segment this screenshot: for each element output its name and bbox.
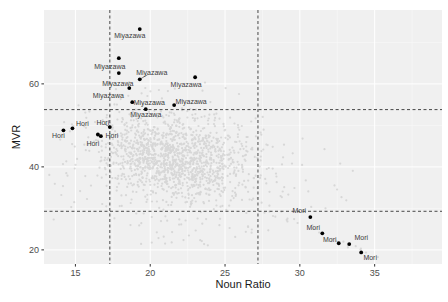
scatter-plot-figure: MiyazawaMiyazawaMiyazawaMiyazawaMiyazawa… <box>0 0 448 302</box>
x-tick-label: 25 <box>220 268 230 278</box>
data-point-label: Mori <box>354 234 368 241</box>
x-axis-title: Noun Ratio <box>44 278 442 290</box>
data-point-label: Hori <box>96 119 109 126</box>
data-point-label: Hori <box>76 120 89 127</box>
data-point-label: Mori <box>323 236 337 243</box>
y-tick-label: 60 <box>29 79 39 89</box>
data-point-label: Hori <box>52 132 65 139</box>
data-point <box>320 231 324 235</box>
data-point-label: Mori <box>363 254 377 261</box>
data-point-label: Mori <box>306 224 320 231</box>
data-point-label: Hori <box>86 140 99 147</box>
plot-panel <box>44 10 442 264</box>
data-point <box>308 215 312 219</box>
data-point <box>347 242 351 246</box>
x-tick-label: 20 <box>145 268 155 278</box>
y-axis: 204060 <box>29 79 44 255</box>
x-tick-label: 30 <box>295 268 305 278</box>
data-point <box>117 71 121 75</box>
data-point-label: Miyazawa <box>134 99 165 107</box>
x-tick-label: 15 <box>70 268 80 278</box>
data-point-label: Miyazawa <box>136 69 167 77</box>
data-point-label: Miyazawa <box>130 111 161 119</box>
data-point <box>71 126 75 130</box>
data-point-label: Miyazawa <box>176 98 207 106</box>
data-point-label: Miyazawa <box>94 63 125 71</box>
data-point-label: Miyazawa <box>114 32 145 40</box>
data-point <box>99 134 103 138</box>
y-tick-label: 40 <box>29 162 39 172</box>
data-point <box>127 86 131 90</box>
scatter-plot: MiyazawaMiyazawaMiyazawaMiyazawaMiyazawa… <box>0 0 448 302</box>
data-point-label: Hori <box>105 132 118 139</box>
x-tick-label: 35 <box>370 268 380 278</box>
y-tick-label: 20 <box>29 245 39 255</box>
data-point-label: Miyazawa <box>93 92 124 100</box>
data-point <box>337 241 341 245</box>
data-point-label: Mori <box>293 207 307 214</box>
data-point <box>193 75 197 79</box>
x-axis: 1520253035 <box>70 264 379 278</box>
data-point <box>138 77 142 81</box>
data-point-label: Miyazawa <box>171 81 202 89</box>
data-point <box>138 27 142 31</box>
data-point <box>117 56 121 60</box>
y-axis-title: MVR <box>10 125 22 149</box>
